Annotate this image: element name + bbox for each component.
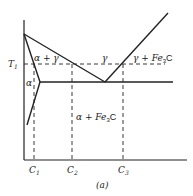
figure-caption: (a) — [96, 180, 109, 190]
gamma-region-label: γ — [102, 53, 108, 63]
alpha-fe3c-region-label: α + Fe3C — [76, 112, 117, 123]
alpha-gamma-region-label: α + γ — [34, 53, 59, 63]
c1-label: C1 — [29, 165, 40, 176]
t1-label: T1 — [8, 59, 18, 70]
gamma-fe3c-region-label: γ + Fe3C — [133, 53, 173, 64]
c2-label: C2 — [67, 165, 78, 176]
acm-boundary — [105, 13, 168, 82]
alpha-solvus — [27, 82, 40, 125]
c3-label: C3 — [118, 165, 129, 176]
alpha-region-label: α — [26, 78, 32, 88]
phase-diagram: T1 α α + γ γ γ + Fe3C α + Fe3C C1 C2 C3 … — [0, 0, 193, 196]
